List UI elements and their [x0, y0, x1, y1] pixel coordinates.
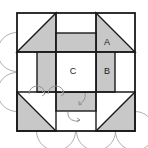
center-region-shape	[56, 52, 96, 92]
geometry-figure: A B C	[0, 0, 148, 148]
bar-top-shape	[56, 33, 96, 52]
bar-left-shape	[37, 52, 56, 92]
square-dissection-diagram: A B C	[0, 0, 148, 148]
bar-right-shape	[96, 52, 115, 92]
